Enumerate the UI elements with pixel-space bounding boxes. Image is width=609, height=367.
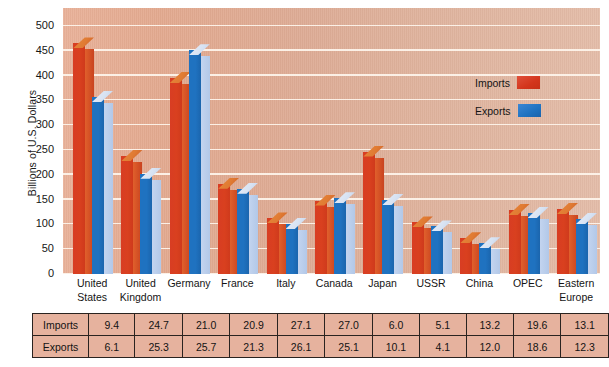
x-axis-label: Japan [356,277,408,291]
y-tick-label: 350 [18,93,54,105]
bar-front-face [460,238,472,274]
x-axis-label: United Kingdom [114,277,166,304]
bar-exports [382,200,403,274]
table-cell: 19.6 [513,314,560,336]
bar-imports [218,184,239,274]
table-cell: 27.0 [325,314,372,336]
x-axis-label: France [211,277,263,291]
legend-item-exports: Exports [475,104,541,117]
bar-front-face [73,43,85,274]
bar-front-face [286,224,298,274]
bar-side-face [540,219,549,274]
bar-imports [73,43,94,274]
y-tick-label: 300 [18,118,54,130]
y-tick-label: 200 [18,168,54,180]
bar-side-face [346,204,355,274]
table-cell: 13.1 [561,314,609,336]
bar-front-face [189,50,201,274]
bar-side-face [298,230,307,274]
x-axis-category-labels: United StatesUnited KingdomGermanyFrance… [63,277,600,311]
bar-side-face [152,180,161,274]
table-row: Imports9.424.721.020.927.127.06.05.113.2… [33,314,609,336]
bar-exports [286,224,307,274]
table-row: Exports6.125.325.721.326.125.110.14.112.… [33,336,609,358]
table-cell: 21.0 [182,314,229,336]
bar-exports [479,243,500,274]
plot-area: Imports Exports [63,8,600,274]
table-cell: 10.1 [372,336,419,358]
bar-front-face [576,219,588,274]
bar-imports [412,222,433,274]
x-axis-label: United States [66,277,118,304]
bar-side-face [491,249,500,274]
bar-group [458,8,506,274]
x-axis-label: Italy [260,277,312,291]
bar-imports [315,201,336,274]
y-tick-label: 250 [18,143,54,155]
bar-group [555,8,600,274]
legend-label-exports: Exports [475,105,511,117]
table-row-header: Exports [33,336,89,358]
bar-front-face [267,218,279,274]
bar-front-face [315,201,327,274]
y-tick-label: 0 [18,267,54,279]
data-table: Imports9.424.721.020.927.127.06.05.113.2… [32,313,609,358]
bar-front-face [92,97,104,274]
bar-front-face [237,189,249,274]
bar-side-face [104,103,113,274]
bar-side-face [588,225,597,274]
bar-front-face [509,210,521,274]
y-tick-label: 450 [18,44,54,56]
bar-group [71,8,119,274]
bar-front-face [431,226,443,274]
bar-exports [237,189,258,274]
bar-exports [334,198,355,274]
bar-group [168,8,216,274]
y-tick-label: 150 [18,193,54,205]
bar-group [119,8,167,274]
bar-group [361,8,409,274]
bar-front-face [382,200,394,274]
table-cell: 13.2 [466,314,513,336]
bar-group [313,8,361,274]
x-axis-label: OPEC [502,277,554,291]
y-tick-label: 500 [18,19,54,31]
x-axis-label: USSR [405,277,457,291]
table-cell: 25.7 [182,336,229,358]
bar-exports [576,219,597,274]
legend-label-imports: Imports [475,77,510,89]
bar-side-face [249,195,258,274]
bar-side-face [201,56,210,274]
bar-exports [431,226,452,274]
bar-group [507,8,555,274]
table-cell: 24.7 [135,314,182,336]
table-cell: 25.3 [135,336,182,358]
table-row-header: Imports [33,314,89,336]
x-axis-label: Germany [163,277,215,291]
bar-front-face [557,209,569,274]
y-tick-label: 100 [18,217,54,229]
table-cell: 21.3 [230,336,277,358]
bar-group [265,8,313,274]
legend-swatch-exports [518,104,541,117]
table-cell: 6.1 [89,336,135,358]
bar-front-face [528,213,540,274]
bar-front-face [412,222,424,274]
bar-imports [363,152,384,275]
bar-group [410,8,458,274]
bar-exports [189,50,210,274]
y-tick-label: 50 [18,242,54,254]
x-axis-label: Canada [308,277,360,291]
table-cell: 25.1 [325,336,372,358]
table-cell: 5.1 [420,314,466,336]
table-cell: 20.9 [230,314,277,336]
table-cell: 4.1 [420,336,466,358]
bar-group [216,8,264,274]
chart-figure: Billions of U.S. Dollars 050100150200250… [0,0,609,367]
x-axis-label: Eastern Europe [550,277,602,304]
table-cell: 12.3 [561,336,609,358]
bar-imports [121,156,142,274]
bar-imports [460,238,481,274]
table-cell: 9.4 [89,314,135,336]
y-axis-tick-labels: 050100150200250300350400450500 [18,0,58,280]
